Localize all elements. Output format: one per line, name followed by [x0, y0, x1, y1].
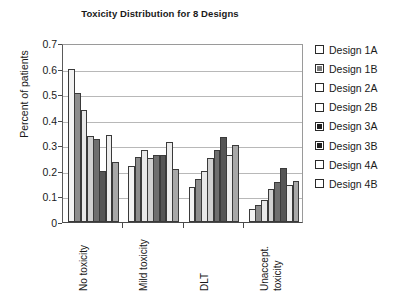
legend-item[interactable]: Design 1B — [315, 59, 403, 78]
x-axis-separator — [243, 223, 244, 228]
y-tick-mark — [58, 223, 62, 224]
legend-label: Design 4B — [329, 178, 377, 190]
legend-swatch-icon — [315, 141, 324, 150]
legend-swatch-icon — [315, 160, 324, 169]
legend-swatch-icon — [315, 179, 324, 188]
legend-label: Design 4A — [329, 159, 377, 171]
x-axis-separator — [183, 223, 184, 228]
x-category-label: No toxicity — [78, 245, 89, 291]
chart-legend: Design 1ADesign 1BDesign 2ADesign 2BDesi… — [315, 40, 403, 194]
legend-label: Design 3A — [329, 120, 377, 132]
legend-label: Design 3B — [329, 140, 377, 152]
y-tick-label: 0.4 — [17, 116, 57, 126]
legend-item[interactable]: Design 3B — [315, 136, 403, 155]
y-tick-label: 0.7 — [17, 39, 57, 49]
bar — [293, 181, 300, 222]
legend-item[interactable]: Design 1A — [315, 40, 403, 59]
chart-title: Toxicity Distribution for 8 Designs — [0, 8, 320, 19]
y-tick-label: 0.3 — [17, 141, 57, 151]
legend-item[interactable]: Design 4A — [315, 155, 403, 174]
legend-item[interactable]: Design 4B — [315, 174, 403, 193]
legend-swatch-icon — [315, 45, 324, 54]
legend-label: Design 2B — [329, 101, 377, 113]
x-axis-separator — [122, 223, 123, 228]
legend-swatch-icon — [315, 103, 324, 112]
x-category-label: Unaccept. — [259, 246, 270, 291]
bar — [172, 169, 179, 222]
x-category-label: DLT — [199, 273, 210, 291]
gridline — [63, 122, 302, 123]
bar — [232, 145, 239, 222]
legend-swatch-icon — [315, 122, 324, 131]
bar — [112, 162, 119, 222]
legend-swatch-icon — [315, 83, 324, 92]
y-tick-label: 0.1 — [17, 192, 57, 202]
y-tick-label: 0 — [17, 218, 57, 228]
legend-label: Design 2A — [329, 82, 377, 94]
plot-area — [62, 44, 303, 223]
legend-swatch-icon — [315, 64, 324, 73]
gridline — [63, 96, 302, 97]
x-category-label: Mild toxicity — [138, 239, 149, 291]
legend-item[interactable]: Design 2A — [315, 78, 403, 97]
toxicity-bar-chart: Toxicity Distribution for 8 Designs Perc… — [0, 0, 405, 297]
x-category-label: toxicity — [272, 260, 283, 291]
y-tick-label: 0.2 — [17, 167, 57, 177]
y-tick-label: 0.6 — [17, 65, 57, 75]
y-tick-label: 0.5 — [17, 90, 57, 100]
legend-label: Design 1B — [329, 63, 377, 75]
legend-label: Design 1A — [329, 44, 377, 56]
legend-item[interactable]: Design 2B — [315, 98, 403, 117]
legend-item[interactable]: Design 3A — [315, 117, 403, 136]
gridline — [63, 71, 302, 72]
